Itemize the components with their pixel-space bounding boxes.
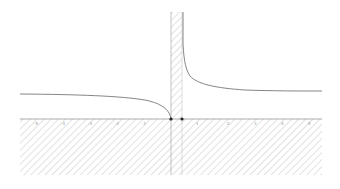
svg-text:-3: -3 (88, 121, 92, 126)
svg-text:-5: -5 (34, 121, 38, 126)
curve-right-branch (183, 12, 322, 91)
point-x-one (180, 117, 183, 120)
point-origin (169, 117, 172, 120)
svg-text:-1: -1 (142, 121, 146, 126)
curve-left-branch (20, 94, 171, 119)
hatched-region-vertical-band (171, 12, 182, 119)
svg-text:-4: -4 (61, 121, 65, 126)
function-graph: -5 -4 -3 -2 -1 1 2 3 4 5 (0, 0, 340, 189)
svg-text:-2: -2 (115, 121, 119, 126)
